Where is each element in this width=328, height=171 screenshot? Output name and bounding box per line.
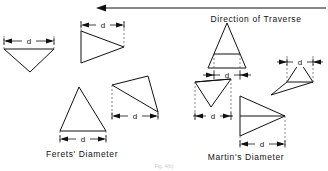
particle-diameter-diagram: Direction of Traverse d [0, 0, 328, 171]
direction-of-traverse-arrow [96, 5, 326, 12]
dimension-feret-top-left: d [4, 36, 54, 46]
figure-container: Direction of Traverse d [0, 0, 328, 171]
dimension-feret-bottom-left: d [60, 134, 106, 144]
dimension-label-d5: d [225, 71, 229, 80]
dimension-label-d4: d [133, 112, 137, 121]
dimension-martin-bottom-mid: d [240, 139, 285, 149]
dimension-martin-top-right: d [277, 57, 323, 67]
dimension-label-d2: d [101, 21, 105, 30]
dimension-label-d8: d [260, 140, 264, 149]
figure-caption: Fig. 4(b) [155, 163, 174, 169]
dimension-label-d1: d [27, 37, 31, 46]
ferets-diameter-label: Ferets' Diameter [46, 149, 118, 159]
dimension-label-d7: d [211, 112, 215, 121]
dimension-feret-bottom-mid: d [112, 111, 158, 121]
dimension-martin-top-mid: d [203, 70, 251, 80]
dimension-feret-top-mid: d [81, 20, 124, 30]
dimension-label-d3: d [81, 135, 85, 144]
dimension-label-d6: d [298, 58, 302, 67]
direction-of-traverse-label: Direction of Traverse [210, 14, 301, 24]
martins-diameter-label: Martin's Diameter [208, 152, 285, 162]
dimension-martin-bottom-left: d [193, 111, 233, 121]
